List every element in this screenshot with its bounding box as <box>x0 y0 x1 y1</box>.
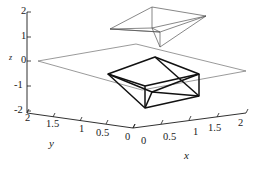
reference-plane-z0 <box>38 44 246 90</box>
x-axis-title: x <box>184 150 189 161</box>
y-tick-label-0-5: 0.5 <box>96 128 109 139</box>
y-tick-label-1: 1 <box>79 124 84 135</box>
x-tick-label-0: 0 <box>141 136 146 147</box>
lower-surface-wireframe <box>108 57 199 108</box>
z-axis-ticks <box>27 12 31 111</box>
x-tick-label-2: 2 <box>238 118 243 129</box>
axis-lines <box>27 12 246 128</box>
upper-surface-wireframe <box>110 7 206 47</box>
y-tick-label-2: 2 <box>25 113 30 124</box>
y-tick-label-0: 0 <box>125 132 130 143</box>
x-axis-line <box>133 113 246 128</box>
z-axis-title: z <box>9 54 12 62</box>
x-axis-ticks <box>133 109 248 128</box>
x-tick-label-1: 1 <box>193 127 198 138</box>
z-tick-label-0: 0 <box>21 55 26 66</box>
z-tick-label-1: 1 <box>21 31 26 42</box>
y-tick-label-1-5: 1.5 <box>46 119 59 130</box>
x-tick-label-0-5: 0.5 <box>163 132 176 143</box>
x-tick-label-1-5: 1.5 <box>208 123 221 134</box>
z-tick-label-2: 2 <box>21 6 26 17</box>
y-axis-title: y <box>49 138 54 149</box>
z-tick-label-neg1: -1 <box>14 80 23 91</box>
plot-canvas <box>0 0 254 171</box>
plot-figure: 2 1 0 -1 -2 2 1.5 1 0.5 0 0 0.5 1 1.5 2 … <box>0 0 254 171</box>
z-tick-label-neg2: -2 <box>14 105 23 116</box>
